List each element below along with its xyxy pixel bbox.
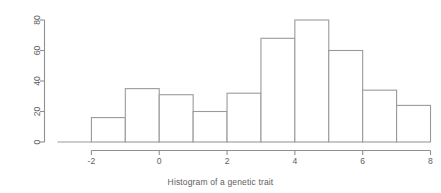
histogram-bar: [159, 95, 193, 142]
plot-caption: Histogram of a genetic trait: [0, 177, 441, 187]
x-axis-tick-label: -2: [88, 156, 96, 166]
histogram-bar: [91, 118, 125, 142]
histogram-plot: 020406080-202468 Histogram of a genetic …: [0, 0, 441, 193]
y-axis: 020406080: [32, 15, 45, 144]
x-axis-tick-label: 2: [225, 156, 230, 166]
x-axis-tick-label: 0: [157, 156, 162, 166]
x-axis-tick-label: 4: [292, 156, 297, 166]
y-axis-tick-label: 20: [32, 107, 42, 117]
histogram-bar: [125, 89, 159, 142]
histogram-bar: [193, 112, 227, 143]
histogram-bar: [227, 93, 261, 142]
bars-group: [58, 20, 431, 142]
x-axis-tick-label: 8: [428, 156, 433, 166]
y-axis-tick-label: 40: [32, 76, 42, 86]
histogram-bar: [363, 90, 397, 142]
y-axis-tick-label: 80: [32, 15, 42, 25]
y-axis-tick-label: 60: [32, 46, 42, 56]
histogram-bar: [329, 51, 363, 143]
histogram-bar: [397, 105, 431, 142]
x-axis: -202468: [88, 151, 434, 166]
histogram-bar: [295, 20, 329, 142]
histogram-svg: 020406080-202468: [0, 0, 441, 193]
x-axis-tick-label: 6: [360, 156, 365, 166]
histogram-bar: [261, 38, 295, 142]
y-axis-tick-label: 0: [32, 139, 42, 144]
